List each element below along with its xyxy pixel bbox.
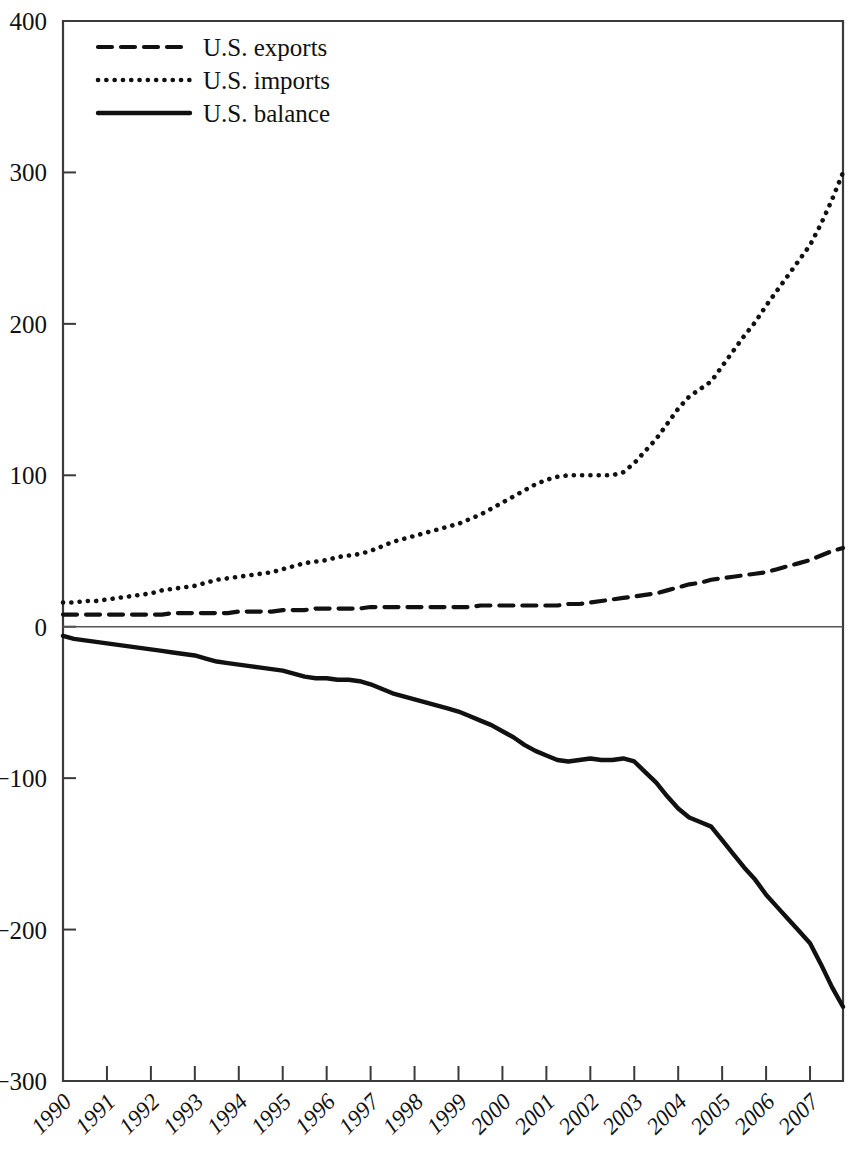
chart-canvas: 4003002001000−100−200−300 19901991199219… — [0, 0, 853, 1156]
x-tick-label: 1995 — [246, 1089, 296, 1139]
trade-line-chart: 4003002001000−100−200−300 19901991199219… — [0, 0, 853, 1156]
x-tick-label: 1992 — [114, 1089, 164, 1139]
x-axis-tick-labels: 1990199119921993199419951996199719981999… — [26, 1088, 824, 1139]
x-tick-label: 2005 — [685, 1089, 735, 1139]
series-solid — [63, 636, 843, 1007]
y-tick-label: 100 — [10, 462, 48, 489]
x-tick-label: 2003 — [598, 1089, 648, 1139]
y-tick-label: −300 — [0, 1068, 47, 1095]
x-tick-label: 2004 — [642, 1089, 692, 1139]
y-axis-tick-marks — [63, 172, 76, 929]
x-tick-label: 2006 — [729, 1089, 780, 1140]
y-tick-label: −200 — [0, 917, 47, 944]
data-series-group — [63, 172, 843, 1006]
y-axis-tick-labels: 4003002001000−100−200−300 — [0, 8, 47, 1095]
x-axis-tick-marks — [63, 1066, 810, 1081]
series-dotted — [63, 172, 843, 602]
x-tick-label: 2007 — [773, 1088, 824, 1139]
x-tick-label: 2000 — [466, 1089, 517, 1140]
legend-label: U.S. balance — [203, 100, 330, 127]
y-tick-label: 200 — [10, 311, 48, 338]
y-tick-label: 0 — [35, 614, 48, 641]
y-tick-label: 300 — [10, 159, 48, 186]
x-tick-label: 2001 — [510, 1089, 560, 1139]
x-tick-label: 1994 — [202, 1089, 252, 1139]
legend-label: U.S. exports — [203, 34, 327, 61]
plot-frame — [63, 21, 843, 1081]
x-tick-label: 1998 — [378, 1089, 429, 1140]
y-tick-label: 400 — [10, 8, 48, 35]
x-tick-label: 2002 — [554, 1089, 604, 1139]
legend-label: U.S. imports — [203, 67, 330, 94]
x-tick-label: 1999 — [422, 1089, 473, 1140]
x-tick-label: 1993 — [158, 1089, 208, 1139]
y-tick-label: −100 — [0, 765, 47, 792]
chart-legend: U.S. exportsU.S. importsU.S. balance — [98, 34, 330, 127]
series-dashed — [63, 548, 843, 615]
x-tick-label: 1996 — [290, 1089, 341, 1140]
x-tick-label: 1991 — [70, 1089, 120, 1139]
x-tick-label: 1990 — [26, 1089, 77, 1140]
x-tick-label: 1997 — [334, 1088, 385, 1139]
